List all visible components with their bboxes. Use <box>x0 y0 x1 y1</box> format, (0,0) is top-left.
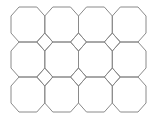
octagon-shape <box>45 42 79 77</box>
square-shape <box>37 68 53 86</box>
octagon-shape <box>79 77 113 112</box>
octagon-tiling-diagram <box>0 0 154 119</box>
square-shape <box>71 33 87 51</box>
octagon-shape <box>11 42 45 77</box>
octagon-shape <box>79 42 113 77</box>
octagon-group <box>11 7 146 112</box>
octagon-shape <box>79 7 113 42</box>
square-shape <box>104 68 120 86</box>
octagon-shape <box>45 7 79 42</box>
octagon-shape <box>112 7 146 42</box>
octagon-shape <box>45 77 79 112</box>
square-shape <box>104 33 120 51</box>
octagon-shape <box>11 7 45 42</box>
octagon-shape <box>11 77 45 112</box>
square-shape <box>71 68 87 86</box>
octagon-shape <box>112 42 146 77</box>
square-shape <box>37 33 53 51</box>
octagon-shape <box>112 77 146 112</box>
